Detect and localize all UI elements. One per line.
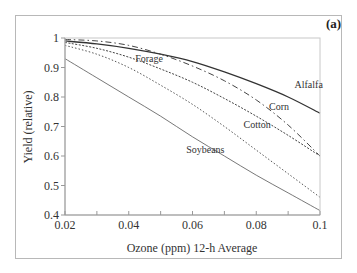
label-soybeans: Soybeans [186,144,224,155]
y-axis-title: Yield (relative) [21,91,35,164]
curve-labels: ForageAlfalfaCornCottonSoybeans [135,53,323,155]
y-tick-label: 0.8 [44,90,59,104]
x-tick-label: 0.1 [313,218,328,232]
series-soybeans-line [65,59,320,211]
series-corn-line [65,39,320,156]
x-tick-label: 0.02 [55,218,76,232]
panel-label: (a) [326,16,341,31]
x-tick-label: 0.08 [246,218,267,232]
label-cotton: Cotton [244,119,271,130]
x-tick-label: 0.04 [118,218,139,232]
y-tick-label: 0.7 [44,120,59,134]
y-tick-label: 0.5 [44,179,59,193]
label-alfalfa: Alfalfa [295,79,324,90]
line-chart: 0.40.50.60.70.80.910.020.040.060.080.1 F… [0,0,357,273]
x-tick-label: 0.06 [182,218,203,232]
label-forage: Forage [135,53,163,64]
label-corn: Corn [269,101,289,112]
y-tick-label: 0.9 [44,61,59,75]
y-tick-label: 1 [53,31,59,45]
x-axis-title: Ozone (ppm) 12-h Average [127,241,258,255]
plot-lines [65,39,320,210]
series-cotton-line [65,45,320,197]
series-forage-line [65,42,320,156]
plot-area [65,38,320,215]
y-tick-label: 0.6 [44,149,59,163]
axes: 0.40.50.60.70.80.910.020.040.060.080.1 [44,31,328,232]
